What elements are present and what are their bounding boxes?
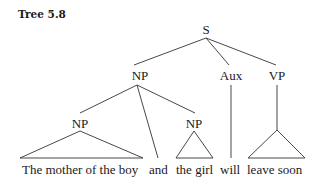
word-will: will [220, 162, 241, 177]
edge-s-vp [206, 38, 276, 65]
figure-title: Tree 5.8 [18, 8, 66, 20]
node-np-right: NP [186, 116, 203, 131]
edge-np-and [137, 85, 158, 158]
node-vp: VP [269, 68, 286, 83]
node-s: S [202, 22, 209, 37]
syntax-tree-diagram: Tree 5.8 S NP Aux VP NP NP The mother of… [0, 0, 319, 183]
edge-s-np [134, 38, 206, 65]
word-the-mother-of-the-boy: The mother of the boy [22, 162, 139, 177]
triangle-np-left [20, 131, 143, 158]
word-and: and [149, 162, 168, 177]
triangle-np-right [176, 131, 213, 158]
node-aux: Aux [220, 68, 243, 83]
word-leave-soon: leave soon [247, 162, 303, 177]
node-np-top: NP [132, 68, 149, 83]
edge-np-np-right [137, 85, 195, 113]
edge-np-np-left [80, 85, 137, 113]
word-the-girl: the girl [176, 162, 214, 177]
triangle-vp [248, 130, 305, 158]
node-np-left: NP [72, 116, 89, 131]
